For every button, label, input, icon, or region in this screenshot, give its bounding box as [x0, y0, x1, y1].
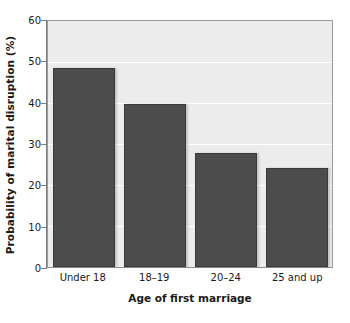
bar[interactable]: [266, 168, 328, 267]
y-axis-title-label: Probability of marital disruption (%): [4, 36, 16, 254]
bar[interactable]: [53, 68, 115, 267]
plot-area: [47, 20, 333, 268]
x-axis-tick-label: Under 18: [47, 272, 119, 288]
x-axis-tick-label: 25 and up: [262, 272, 334, 288]
bar[interactable]: [124, 104, 186, 267]
y-axis-tick-label: 10: [28, 221, 41, 232]
axis-baseline: [48, 267, 332, 268]
x-axis-tick-labels: Under 1818–1920–2425 and up: [47, 272, 333, 288]
x-axis-title: Age of first marriage: [47, 292, 333, 304]
y-axis-tick-mark: [41, 268, 47, 269]
bar-slot: [261, 21, 332, 267]
y-axis-tick-label: 50: [28, 56, 41, 67]
bars-layer: [48, 21, 332, 267]
x-axis-tick-label: 20–24: [190, 272, 262, 288]
y-axis-tick-label: 30: [28, 139, 41, 150]
bar-slot: [119, 21, 190, 267]
y-axis-tick-label: 20: [28, 180, 41, 191]
bar-slot: [190, 21, 261, 267]
y-axis-tick-label: 40: [28, 97, 41, 108]
x-axis-tick-label: 18–19: [119, 272, 191, 288]
bar-chart-figure: Probability of marital disruption (%) 01…: [0, 0, 350, 323]
bar[interactable]: [195, 153, 257, 267]
bar-slot: [48, 21, 119, 267]
y-axis-title: Probability of marital disruption (%): [0, 0, 20, 290]
y-axis-tick-label: 60: [28, 15, 41, 26]
